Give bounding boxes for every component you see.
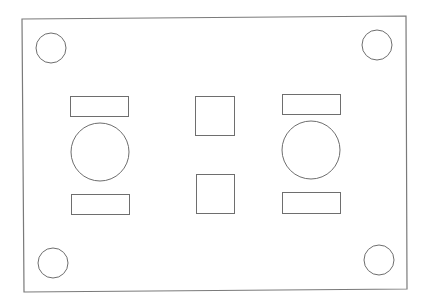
square-cutout-top bbox=[196, 97, 235, 136]
slot-left-bottom bbox=[72, 195, 130, 215]
slot-right-bottom bbox=[283, 193, 341, 214]
large-opening-left bbox=[71, 123, 129, 181]
mounting-hole-bottom-left bbox=[38, 248, 68, 278]
square-cutout-bottom bbox=[197, 175, 235, 214]
mounting-hole-bottom-right bbox=[364, 245, 394, 275]
large-opening-right bbox=[282, 121, 340, 179]
mounting-hole-top-right bbox=[362, 30, 392, 60]
slot-left-top bbox=[71, 97, 129, 117]
plate-outline bbox=[22, 16, 407, 292]
mounting-hole-top-left bbox=[36, 33, 66, 63]
slot-right-top bbox=[283, 95, 341, 115]
panel-diagram bbox=[0, 0, 426, 303]
